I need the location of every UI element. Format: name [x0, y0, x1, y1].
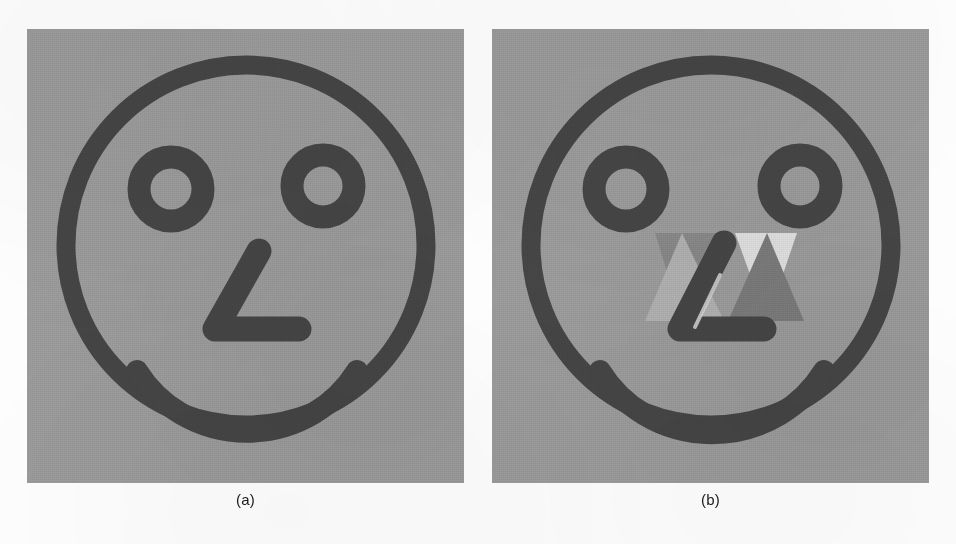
caption-a: (a): [27, 491, 464, 508]
nose-stroke: [215, 251, 299, 329]
nose-overlay-shapes: [492, 29, 929, 483]
right-eye-ring: [292, 155, 354, 217]
caption-b: (b): [492, 491, 929, 508]
left-eye-ring: [139, 157, 203, 221]
smiley-face-a: [27, 29, 464, 483]
figure-panel-b: [492, 29, 929, 483]
face-outline-circle: [66, 65, 426, 425]
lower-right-triangle: [728, 233, 804, 321]
figure-container: (a) (b): [0, 0, 956, 544]
mouth-arc: [137, 371, 357, 432]
figure-panel-a: [27, 29, 464, 483]
